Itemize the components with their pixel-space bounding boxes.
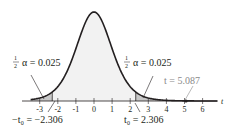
tick-label: 6 <box>201 105 205 114</box>
right-tail-leader <box>143 76 153 98</box>
right-tail-label: α = 0.025 <box>133 57 171 68</box>
left-tail-label: α = 0.025 <box>22 57 60 68</box>
right-tail-area <box>136 92 217 101</box>
left-crit-label: −t₀ = −2.306 <box>12 114 63 125</box>
axis-variable-label: t <box>221 97 224 106</box>
left-tail-leader <box>31 75 44 99</box>
tick-label: 0 <box>92 105 96 114</box>
tick-label: -1 <box>73 105 80 114</box>
tick-label: -3 <box>36 105 43 114</box>
tick-label: -2 <box>54 105 61 114</box>
central-area <box>52 12 135 101</box>
right-crit-leader <box>135 103 140 112</box>
tick-label: 2 <box>128 105 132 114</box>
tick-label: 4 <box>164 105 168 114</box>
test-stat-label: t = 5.087 <box>164 75 200 86</box>
tick-label: 1 <box>110 105 114 114</box>
t-distribution-chart: -3-2-10123456 1 2 α = 0.025 1 2 α = 0.02… <box>0 0 227 140</box>
left-half-den: 2 <box>14 63 17 69</box>
right-crit-label: t₀ = 2.306 <box>124 114 163 125</box>
right-half-num: 1 <box>125 55 128 61</box>
right-half-den: 2 <box>125 63 128 69</box>
tick-label: 5 <box>183 105 187 114</box>
test-stat-marker <box>184 99 187 102</box>
test-stat-leader <box>185 86 193 100</box>
left-half-num: 1 <box>14 55 17 61</box>
tick-label: 3 <box>146 105 150 114</box>
